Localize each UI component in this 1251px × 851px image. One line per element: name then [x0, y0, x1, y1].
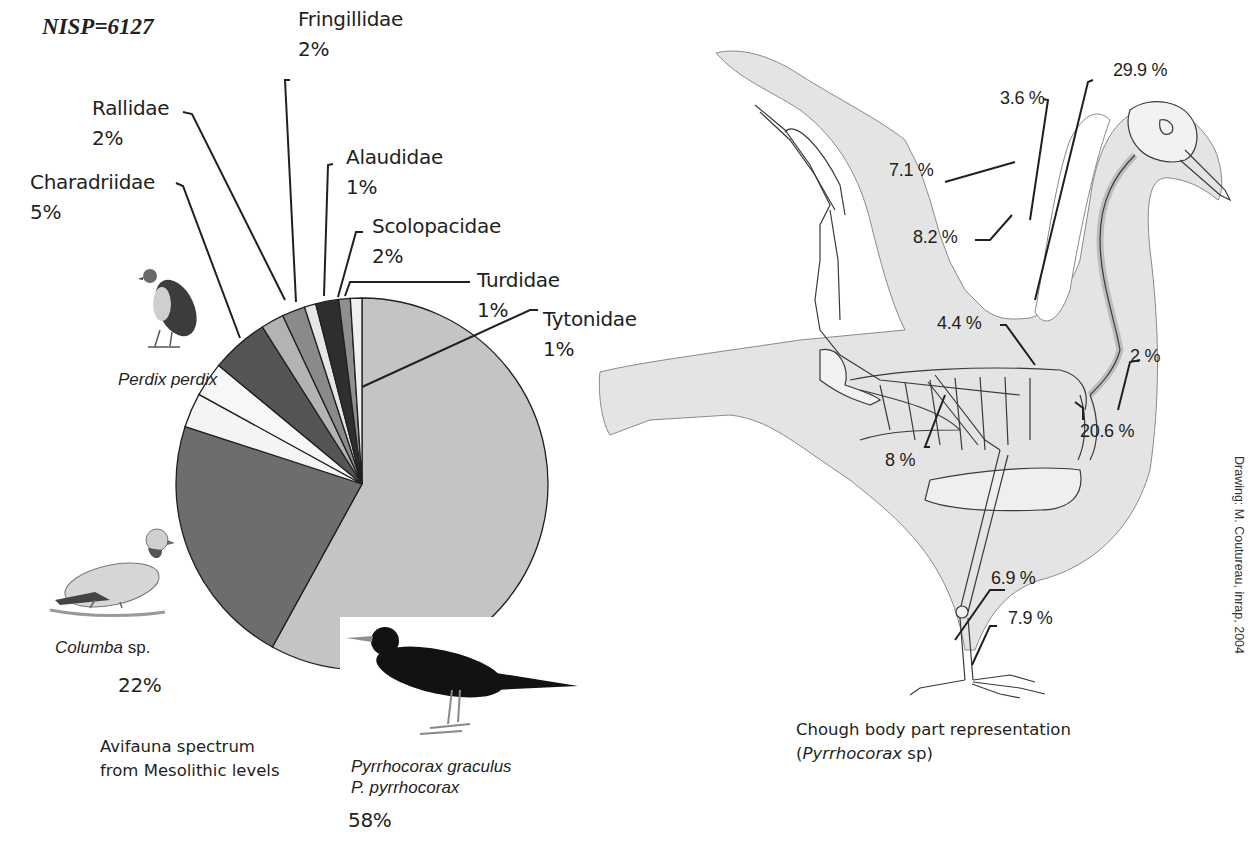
- tytonidae-label: Tytonidae 1%: [543, 304, 637, 364]
- body-part-20-6: 20.6 %: [1080, 421, 1134, 442]
- fringillidae-name: Fringillidae: [298, 4, 403, 34]
- rallidae-label: Rallidae 2%: [92, 93, 169, 153]
- body-part-3-6: 3.6 %: [1000, 88, 1045, 109]
- body-part-29-9: 29.9 %: [1113, 60, 1167, 81]
- right-caption: Chough body part representation (Pyrrhoc…: [796, 718, 1071, 766]
- columba-genus: Columba: [55, 638, 123, 657]
- left-caption-line1: Avifauna spectrum: [100, 735, 280, 759]
- columba-illustration: [50, 529, 175, 616]
- tytonidae-name: Tytonidae: [543, 304, 637, 334]
- pyrrhocorax-line1: Pyrrhocorax graculus: [351, 756, 512, 777]
- body-part-4-4: 4.4 %: [937, 313, 982, 334]
- right-caption-rest: sp): [902, 744, 933, 763]
- rallidae-pct: 2%: [92, 123, 169, 153]
- alaudidae-label: Alaudidae 1%: [346, 142, 443, 202]
- rallidae-name: Rallidae: [92, 93, 169, 123]
- drawing-credit: Drawing: M. Coutureau, inrap, 2004: [1232, 456, 1246, 654]
- left-caption: Avifauna spectrum from Mesolithic levels: [100, 735, 280, 783]
- pyrrhocorax-illustration: [340, 617, 580, 747]
- left-caption-line2: from Mesolithic levels: [100, 759, 280, 783]
- body-part-8: 8 %: [885, 450, 915, 471]
- pyrrhocorax-pct: 58%: [348, 805, 392, 835]
- nisp-label: NISP=6127: [42, 14, 154, 40]
- right-caption-genus: Pyrrhocorax: [802, 744, 902, 763]
- pyrrhocorax-label: Pyrrhocorax graculus P. pyrrhocorax: [351, 756, 512, 798]
- right-caption-line2: (Pyrrhocorax sp): [796, 742, 1071, 766]
- charadriidae-name: Charadriidae: [30, 167, 155, 197]
- alaudidae-name: Alaudidae: [346, 142, 443, 172]
- columba-pct: 22%: [118, 670, 162, 700]
- turdidae-name: Turdidae: [477, 265, 560, 295]
- charadriidae-pct: 5%: [30, 197, 155, 227]
- avifauna-pie: [176, 298, 548, 670]
- pyrrhocorax-line2: P. pyrrhocorax: [351, 777, 512, 798]
- charadriidae-label: Charadriidae 5%: [30, 167, 155, 227]
- tytonidae-pct: 1%: [543, 334, 637, 364]
- perdix-illustration: [138, 269, 205, 347]
- columba-suffix: sp.: [123, 638, 150, 657]
- columba-label: Columba sp.: [55, 638, 150, 658]
- scolopacidae-name: Scolopacidae: [372, 211, 501, 241]
- fringillidae-label: Fringillidae 2%: [298, 4, 403, 64]
- body-part-7-9: 7.9 %: [1008, 608, 1053, 629]
- alaudidae-pct: 1%: [346, 172, 443, 202]
- body-part-2: 2 %: [1130, 346, 1160, 367]
- body-part-7-1: 7.1 %: [889, 160, 934, 181]
- body-part-8-2: 8.2 %: [913, 227, 958, 248]
- scolopacidae-label: Scolopacidae 2%: [372, 211, 501, 271]
- right-caption-line1: Chough body part representation: [796, 718, 1071, 742]
- perdix-label: Perdix perdix: [118, 370, 217, 390]
- chough-silhouette: [599, 51, 1221, 650]
- body-part-6-9: 6.9 %: [991, 568, 1036, 589]
- fringillidae-pct: 2%: [298, 34, 403, 64]
